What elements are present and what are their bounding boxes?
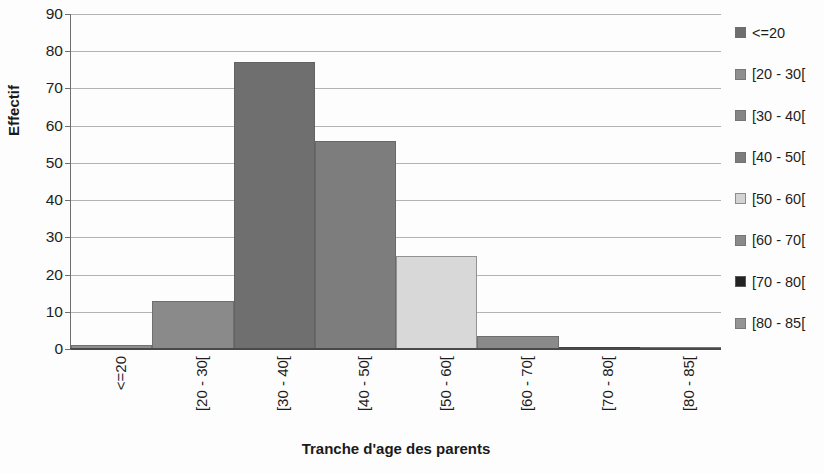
x-axis-tick-label-cell: [30 - 40[ xyxy=(234,352,315,434)
y-axis-tick-mark xyxy=(65,349,71,350)
legend-swatch-icon xyxy=(735,276,746,287)
x-axis-tick-label: [70 - 80[ xyxy=(599,356,616,411)
y-axis-tick-label: 80 xyxy=(11,42,63,60)
x-axis-tick-label: <=20 xyxy=(112,356,129,390)
bar-column xyxy=(315,14,396,349)
bar-column xyxy=(234,14,315,349)
x-axis-title: Tranche d'age des parents xyxy=(71,440,721,457)
legend-item-label: <=20 xyxy=(752,25,785,41)
legend-item[interactable]: [60 - 70[ xyxy=(735,220,824,262)
x-axis-tick-label: [60 - 70[ xyxy=(518,356,535,411)
x-axis-tick-label: [30 - 40[ xyxy=(274,356,291,411)
bar-column xyxy=(71,14,152,349)
plot-area: 9080706050403020100 xyxy=(71,14,721,349)
y-axis-tick-mark xyxy=(65,14,71,15)
y-axis-tick-labels: 9080706050403020100 xyxy=(11,14,63,349)
x-axis-tick-label-cell: <=20 xyxy=(71,352,152,434)
x-axis-tick-label-cell: [80 - 85[ xyxy=(640,352,721,434)
legend-swatch-icon xyxy=(735,110,746,121)
bar-column xyxy=(640,14,721,349)
bar-column xyxy=(396,14,477,349)
legend-item-label: [20 - 30[ xyxy=(752,66,805,82)
bar-column xyxy=(152,14,233,349)
legend-item-label: [50 - 60[ xyxy=(752,191,805,207)
bar-chart: Effectif 9080706050403020100 <=20[20 - 3… xyxy=(0,0,824,473)
bar[interactable] xyxy=(152,301,233,349)
y-axis-tick-label: 20 xyxy=(11,266,63,284)
x-axis-tick-label-cell: [70 - 80[ xyxy=(559,352,640,434)
legend-item-label: [70 - 80[ xyxy=(752,274,805,290)
x-axis-tick-label-cell: [40 - 50[ xyxy=(315,352,396,434)
y-axis-tick-label: 30 xyxy=(11,228,63,246)
x-axis-tick-label-cell: [20 - 30[ xyxy=(152,352,233,434)
y-axis-tick-mark xyxy=(65,126,71,127)
bar[interactable] xyxy=(315,141,396,349)
y-axis-tick-mark xyxy=(65,312,71,313)
legend-swatch-icon xyxy=(735,27,746,38)
legend-item[interactable]: [80 - 85[ xyxy=(735,303,824,345)
y-axis-tick-mark xyxy=(65,237,71,238)
bar-column xyxy=(559,14,640,349)
bar-column xyxy=(477,14,558,349)
legend-item[interactable]: [50 - 60[ xyxy=(735,178,824,220)
y-axis-tick-mark xyxy=(65,275,71,276)
bar[interactable] xyxy=(234,62,315,349)
legend-swatch-icon xyxy=(735,193,746,204)
bar[interactable] xyxy=(396,256,477,349)
y-axis-tick-label: 10 xyxy=(11,303,63,321)
y-axis-tick-label: 50 xyxy=(11,154,63,172)
y-axis-tick-label: 90 xyxy=(11,5,63,23)
x-axis-title-label: Tranche d'age des parents xyxy=(302,440,491,457)
y-axis-tick-label: 40 xyxy=(11,191,63,209)
y-axis-tick-label: 0 xyxy=(11,340,63,358)
legend-swatch-icon xyxy=(735,318,746,329)
legend-item[interactable]: [40 - 50[ xyxy=(735,137,824,179)
y-axis-tick-mark xyxy=(65,200,71,201)
legend-item[interactable]: <=20 xyxy=(735,12,824,54)
bar-series xyxy=(71,14,721,349)
x-axis-tick-label-cell: [60 - 70[ xyxy=(477,352,558,434)
x-axis-tick-label: [50 - 60[ xyxy=(437,356,454,411)
legend-item[interactable]: [30 - 40[ xyxy=(735,95,824,137)
x-axis-tick-label: [80 - 85[ xyxy=(680,356,697,411)
x-axis-tick-label-cell: [50 - 60[ xyxy=(396,352,477,434)
y-axis-tick-mark xyxy=(65,163,71,164)
y-axis-tick-label: 60 xyxy=(11,117,63,135)
x-axis-tick-label: [20 - 30[ xyxy=(193,356,210,411)
legend-item-label: [80 - 85[ xyxy=(752,315,805,331)
x-axis-line xyxy=(70,348,721,350)
legend-swatch-icon xyxy=(735,152,746,163)
y-axis-tick-mark xyxy=(65,88,71,89)
y-axis-tick-label: 70 xyxy=(11,79,63,97)
legend-item-label: [30 - 40[ xyxy=(752,108,805,124)
legend-item-label: [40 - 50[ xyxy=(752,149,805,165)
legend-item[interactable]: [20 - 30[ xyxy=(735,54,824,96)
legend-item-label: [60 - 70[ xyxy=(752,232,805,248)
y-axis-tick-mark xyxy=(65,51,71,52)
x-axis-tick-label: [40 - 50[ xyxy=(355,356,372,411)
legend-swatch-icon xyxy=(735,69,746,80)
legend-swatch-icon xyxy=(735,235,746,246)
legend-item[interactable]: [70 - 80[ xyxy=(735,261,824,303)
x-axis-tick-labels: <=20[20 - 30[[30 - 40[[40 - 50[[50 - 60[… xyxy=(71,352,721,434)
legend: <=20[20 - 30[[30 - 40[[40 - 50[[50 - 60[… xyxy=(735,12,824,344)
